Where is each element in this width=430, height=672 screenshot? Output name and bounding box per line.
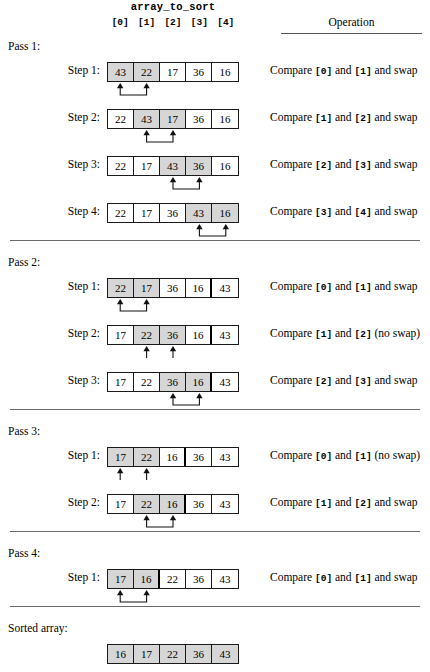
sorted-array-row: 1617223643 [0, 644, 430, 664]
op-suffix: and swap [372, 374, 418, 386]
array-cell-2: 36 [160, 279, 186, 297]
array-cell-1: 16 [134, 570, 160, 588]
array-row: 2243173616 [107, 109, 239, 129]
operation-text: Compare [2] and [3] and swap [270, 158, 430, 171]
operation-text: Compare [1] and [2] and swap [270, 496, 430, 509]
operation-text: Compare [0] and [1] (no swap) [270, 449, 430, 462]
array-cell-0: 22 [108, 279, 134, 297]
op-prefix: Compare [270, 374, 315, 386]
array-row: 2217433616 [107, 156, 239, 176]
step-label: Step 1: [0, 280, 100, 292]
array-cell-4: 43 [212, 570, 238, 588]
array-cell-2: 17 [160, 63, 186, 81]
array-index-label-1: [1] [133, 17, 159, 28]
step-row: Step 3:1722361643Compare [2] and [3] and… [0, 372, 430, 392]
op-mid: and [332, 571, 354, 583]
step-row: Step 4:2217364316Compare [3] and [4] and… [0, 203, 430, 223]
array-cell-2: 16 [160, 448, 186, 466]
step-label: Step 1: [0, 449, 100, 461]
array-cell-4: 16 [212, 204, 238, 222]
array-row: 1722361643 [107, 325, 239, 345]
op-index-b: [3] [355, 160, 372, 171]
op-index-a: [2] [315, 376, 332, 387]
pass-separator-2 [10, 409, 420, 410]
array-cell-2: 22 [160, 570, 186, 588]
step-row: Step 2:1722163643Compare [1] and [2] and… [0, 494, 430, 514]
op-index-b: [2] [355, 113, 372, 124]
op-mid: and [332, 158, 354, 170]
operation-text: Compare [1] and [2] (no swap) [270, 327, 430, 340]
step-row: Step 1:2217361643Compare [0] and [1] and… [0, 278, 430, 298]
array-row: 2217361643 [107, 278, 239, 298]
array-cell-1: 43 [134, 110, 160, 128]
sorted-array-cell-4: 43 [212, 645, 238, 663]
op-index-b: [1] [355, 451, 372, 462]
array-cell-2: 36 [160, 373, 186, 391]
op-index-a: [0] [315, 573, 332, 584]
step-label: Step 3: [0, 158, 100, 170]
step-row: Step 1:1722163643Compare [0] and [1] (no… [0, 447, 430, 467]
step-label: Step 1: [0, 571, 100, 583]
op-mid: and [332, 64, 354, 76]
array-cell-3: 36 [186, 570, 212, 588]
array-cell-1: 22 [134, 495, 160, 513]
array-cell-1: 22 [134, 63, 160, 81]
operation-column-header: Operation [281, 16, 422, 28]
pass-label-2: Pass 2: [8, 256, 40, 268]
array-row: 1722163643 [107, 447, 239, 467]
op-mid: and [332, 374, 354, 386]
op-index-a: [0] [315, 66, 332, 77]
array-cell-0: 17 [108, 495, 134, 513]
compare-arrow-indicator [107, 467, 239, 485]
sorted-array-cell-0: 16 [108, 645, 134, 663]
op-mid: and [332, 496, 354, 508]
step-row: Step 1:1716223643Compare [0] and [1] and… [0, 569, 430, 589]
op-mid: and [332, 449, 354, 461]
array-cell-0: 17 [108, 570, 134, 588]
op-index-b: [4] [355, 207, 372, 218]
array-row: 4322173616 [107, 62, 239, 82]
array-cell-4: 16 [212, 157, 238, 175]
op-prefix: Compare [270, 496, 315, 508]
op-index-a: [1] [315, 329, 332, 340]
step-label: Step 1: [0, 64, 100, 76]
op-index-a: [2] [315, 160, 332, 171]
array-cell-3: 36 [186, 63, 212, 81]
op-mid: and [332, 205, 354, 217]
op-suffix: and swap [372, 280, 418, 292]
step-row: Step 3:2217433616Compare [2] and [3] and… [0, 156, 430, 176]
operation-text: Compare [0] and [1] and swap [270, 571, 430, 584]
op-mid: and [332, 327, 354, 339]
array-cell-3: 43 [186, 204, 212, 222]
pass-separator-1 [10, 240, 420, 241]
swap-arrow-indicator [107, 82, 239, 100]
pass-label-1: Pass 1: [8, 40, 40, 52]
op-suffix: and swap [372, 496, 418, 508]
op-index-a: [3] [315, 207, 332, 218]
array-cell-0: 22 [108, 204, 134, 222]
step-label: Step 3: [0, 374, 100, 386]
op-prefix: Compare [270, 280, 315, 292]
array-index-label-3: [3] [186, 17, 212, 28]
sorted-array-cell-1: 17 [134, 645, 160, 663]
array-cell-1: 22 [134, 373, 160, 391]
array-cell-3: 36 [186, 157, 212, 175]
array-cell-4: 16 [212, 110, 238, 128]
swap-arrow-indicator [107, 392, 239, 410]
op-index-a: [0] [315, 282, 332, 293]
sorted-array-label: Sorted array: [8, 622, 68, 634]
array-cell-4: 43 [212, 373, 238, 391]
op-index-b: [2] [355, 498, 372, 509]
array-cell-2: 36 [160, 204, 186, 222]
step-label: Step 2: [0, 327, 100, 339]
diagram-title: array_to_sort [107, 1, 239, 13]
array-cell-3: 36 [186, 495, 212, 513]
array-cell-0: 22 [108, 110, 134, 128]
operation-text: Compare [2] and [3] and swap [270, 374, 430, 387]
array-row: 1722163643 [107, 494, 239, 514]
op-prefix: Compare [270, 571, 315, 583]
op-index-b: [1] [355, 573, 372, 584]
array-cell-0: 22 [108, 157, 134, 175]
pass-label-3: Pass 3: [8, 425, 40, 437]
operation-text: Compare [3] and [4] and swap [270, 205, 430, 218]
